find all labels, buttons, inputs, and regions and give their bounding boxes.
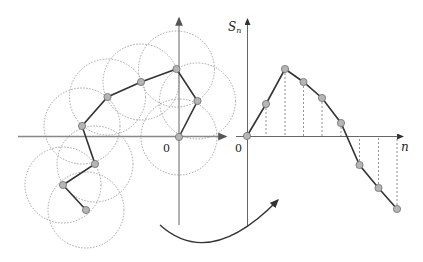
walk-point <box>137 78 144 85</box>
walk-point <box>175 133 182 140</box>
left-figure: 0 <box>18 18 236 248</box>
walk-point <box>318 94 325 101</box>
walk-point <box>281 65 288 72</box>
walk-point <box>300 78 307 85</box>
walk-point <box>104 93 111 100</box>
walk-point <box>91 160 98 167</box>
walk-point <box>243 132 250 139</box>
step-circles <box>25 31 236 248</box>
walk-point <box>82 206 89 213</box>
walk-point <box>262 100 269 107</box>
walk-point <box>356 161 363 168</box>
walk-point <box>173 65 180 72</box>
x-axis-label: n <box>401 140 409 154</box>
walk-point <box>78 122 85 129</box>
walk-point <box>337 119 344 126</box>
right-figure: 0 Sn n <box>228 19 409 226</box>
walk-point <box>59 181 66 188</box>
walk-point <box>375 184 382 191</box>
sn-path <box>247 69 397 209</box>
mapping-arrow <box>160 200 278 243</box>
left-origin-label: 0 <box>163 142 170 155</box>
y-axis-label: Sn <box>228 20 241 35</box>
right-origin-label: 0 <box>235 142 242 155</box>
sn-points <box>243 65 400 212</box>
walk-point <box>393 205 400 212</box>
random-walk-diagram: 0 0 Sn n <box>0 0 423 262</box>
walk-point <box>194 97 201 104</box>
